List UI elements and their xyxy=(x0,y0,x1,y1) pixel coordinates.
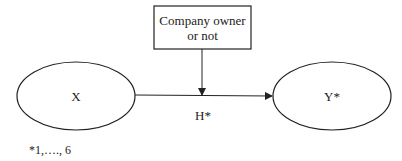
main-path-arrow xyxy=(135,95,272,96)
path-label: H* xyxy=(183,108,223,123)
node-x-label: X xyxy=(56,89,96,104)
node-y-label: Y* xyxy=(312,89,352,104)
footnote: *1,…., 6 xyxy=(29,143,71,158)
moderator-label-line2: or not xyxy=(154,28,251,43)
moderator-label-line1: Company owner xyxy=(154,13,251,28)
moderator-label: Company owner or not xyxy=(154,13,251,43)
